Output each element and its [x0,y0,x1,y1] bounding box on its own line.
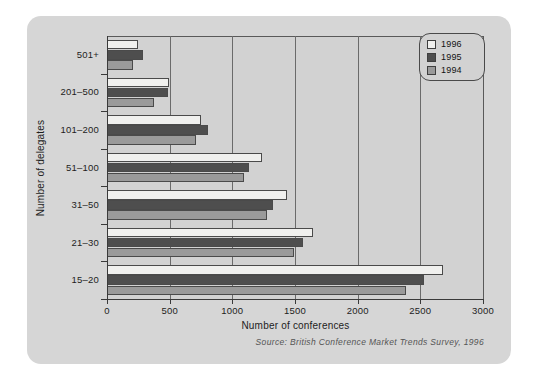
legend-swatch-icon-1995 [427,53,436,62]
y-axis-tick [101,149,107,150]
bar-1995-15–20 [107,275,424,285]
bar-1995-21–30 [107,238,303,248]
x-axis-tick [420,299,421,304]
bar-1995-101–200 [107,125,208,135]
bar-1994-51–100 [107,173,244,183]
chart-screenshot: 050010001500200025003000 Number of deleg… [0,0,538,379]
bar-1994-15–20 [107,286,406,296]
x-axis-tick [232,299,233,304]
y-axis-tick [101,186,107,187]
legend-swatch-icon-1994 [427,66,436,75]
bar-1996-31–50 [107,190,287,200]
x-axis-tick [358,299,359,304]
x-axis-tick-label: 2500 [409,305,431,316]
legend-label-1995: 1995 [441,53,462,62]
legend-swatch-icon-1996 [427,40,436,49]
y-axis-tick-label: 201–500 [0,86,99,97]
x-axis-tick [483,299,484,304]
y-axis-tick-label: 101–200 [0,124,99,135]
legend-item-1995[interactable]: 1995 [427,52,462,63]
bar-1994-201–500 [107,98,154,108]
x-axis-tick-label: 2000 [347,305,369,316]
y-axis-tick-label: 15–20 [0,274,99,285]
bar-1996-201–500 [107,78,169,88]
bar-1996-51–100 [107,153,262,163]
legend: 1996 1995 1994 [419,33,485,81]
bar-1996-501+ [107,40,138,50]
y-axis-tick-label: 51–100 [0,162,99,173]
bar-1995-501+ [107,50,143,60]
bar-1995-201–500 [107,88,168,98]
x-axis-tick [107,299,108,304]
x-axis-tick [170,299,171,304]
x-axis-tick-label: 500 [161,305,177,316]
x-axis-tick-label: 1000 [221,305,243,316]
y-axis-tick-label: 31–50 [0,199,99,210]
bar-1994-501+ [107,60,133,70]
y-axis-tick [101,261,107,262]
source-note: Source: British Conference Market Trends… [107,337,484,347]
bar-1994-31–50 [107,210,267,220]
bar-1995-51–100 [107,163,249,173]
y-axis-line [107,36,108,300]
bar-1996-21–30 [107,228,313,238]
y-axis-tick-label: 501+ [0,49,99,60]
x-axis-tick [295,299,296,304]
bar-1994-21–30 [107,248,294,258]
bar-1994-101–200 [107,135,196,145]
gridline [358,36,359,299]
bar-1996-101–200 [107,115,201,125]
gridline [295,36,296,299]
bar-1996-15–20 [107,265,443,275]
bar-1995-31–50 [107,200,273,210]
legend-item-1996[interactable]: 1996 [427,39,462,50]
x-axis-tick-label: 0 [104,305,109,316]
y-axis-tick-label: 21–30 [0,237,99,248]
legend-label-1994: 1994 [441,66,462,75]
y-axis-tick [101,224,107,225]
legend-item-1994[interactable]: 1994 [427,65,462,76]
x-axis-tick-label: 3000 [472,305,494,316]
x-axis-title: Number of conferences [107,320,484,331]
y-axis-tick [101,74,107,75]
y-axis-tick [101,111,107,112]
x-axis-tick-label: 1500 [284,305,306,316]
legend-label-1996: 1996 [441,40,462,49]
